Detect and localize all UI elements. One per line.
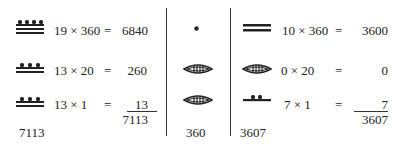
right-value-1: 3600: [360, 24, 388, 38]
left-eq-1: =: [104, 24, 111, 38]
left-sum: 7113: [120, 113, 148, 127]
right-expr-3: 7 × 1: [284, 98, 311, 112]
left-total: 7113: [19, 126, 45, 140]
divider-right: [230, 8, 231, 136]
maya-numeral-19-icon: [16, 20, 44, 36]
left-eq-2: =: [104, 64, 111, 78]
middle-total: 360: [186, 126, 206, 140]
divider-left: [166, 8, 167, 136]
left-eq-3: =: [104, 98, 111, 112]
maya-numeral-13-icon: [16, 97, 44, 109]
left-value-2: 260: [120, 64, 147, 78]
maya-numeral-13-icon: [16, 63, 44, 75]
left-value-3: 13: [120, 98, 148, 112]
right-eq-1: =: [335, 24, 342, 38]
left-expr-1: 19 × 360: [54, 24, 100, 38]
maya-numeral-7-icon: [243, 95, 271, 103]
right-eq-3: =: [335, 98, 342, 112]
right-eq-2: =: [335, 64, 342, 78]
maya-shell-zero-icon: [183, 93, 213, 107]
right-value-3: 7: [360, 98, 388, 112]
maya-shell-zero-icon: [242, 62, 272, 76]
right-expr-2: 0 × 20: [281, 64, 314, 78]
left-expr-3: 13 × 1: [54, 98, 87, 112]
maya-numeral-10-icon: [243, 24, 271, 32]
right-value-2: 0: [360, 64, 388, 78]
maya-dot-icon: [194, 26, 199, 31]
left-expr-2: 13 × 20: [54, 64, 94, 78]
left-value-1: 6840: [120, 24, 148, 38]
right-total: 3607: [240, 126, 266, 140]
maya-shell-zero-icon: [183, 62, 213, 76]
right-sum: 3607: [360, 113, 388, 127]
right-expr-1: 10 × 360: [282, 24, 328, 38]
